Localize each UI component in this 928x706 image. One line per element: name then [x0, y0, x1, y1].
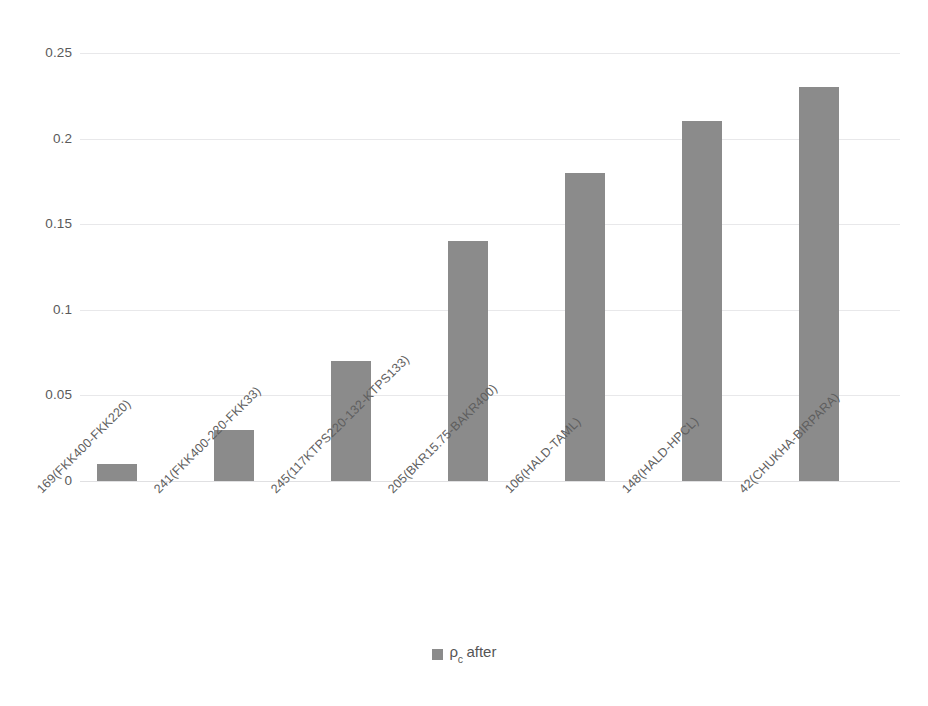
- y-axis-tick-label: 0.05: [0, 388, 72, 402]
- bar-chart: 0.25 0.2 0.15 0.1 0.05 0 169(FKK400-FKK2…: [0, 0, 928, 706]
- bar-series-rho-c-after[interactable]: [97, 464, 137, 481]
- bars-layer: [80, 53, 900, 481]
- y-axis-tick-label: 0.25: [0, 46, 72, 60]
- x-axis-labels: 169(FKK400-FKK220) 241(FKK400-220-FKK33)…: [0, 481, 928, 631]
- y-axis-tick-label: 0.1: [0, 303, 72, 317]
- y-axis-tick-label: 0.15: [0, 217, 72, 231]
- legend-label-tail: after: [466, 643, 496, 660]
- legend-label: ρcafter: [450, 643, 497, 663]
- legend-swatch-icon: [432, 649, 443, 660]
- legend-label-subscript: c: [458, 653, 463, 665]
- legend-label-base: ρ: [450, 643, 459, 660]
- legend-item-rho-c-after[interactable]: ρcafter: [432, 643, 497, 663]
- chart-legend: ρcafter: [0, 643, 928, 663]
- y-axis-tick-label: 0.2: [0, 132, 72, 146]
- bar-series-rho-c-after[interactable]: [448, 241, 488, 481]
